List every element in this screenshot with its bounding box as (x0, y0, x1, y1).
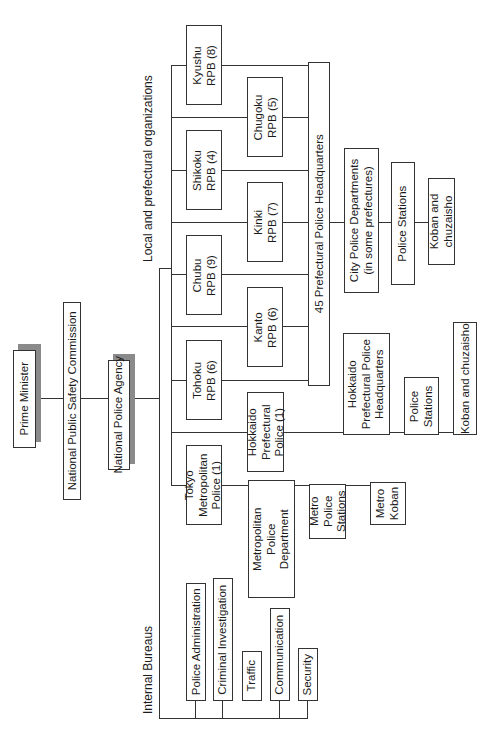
connector (222, 701, 223, 718)
city-police-depts-box: City Police Departments(in some prefectu… (344, 148, 379, 293)
metro-koban-line: Metro (374, 487, 388, 520)
rpb-name: Chugoku (252, 94, 266, 140)
city-koban-box: Koban andchuzaisho (428, 178, 455, 265)
rpb-count: RPB (5) (265, 94, 279, 140)
city-koban-line: Koban and (428, 194, 442, 250)
prefectural-hq-label: 45 Prefectural Police Headquarters (312, 135, 326, 314)
npsc-box: National Public Safety Commission (63, 302, 81, 500)
mpd-line: Department (278, 507, 292, 570)
rpb-name: Kanto (252, 307, 266, 348)
npa-box: National Police Agency (108, 360, 130, 470)
bureau-traffic: Traffic (242, 651, 262, 701)
mpd-line: Metropolitan (251, 507, 265, 570)
hokkaido-stations-line: Police (408, 385, 422, 427)
mpd-box: MetropolitanPoliceDepartment (248, 480, 295, 598)
hokkaido-police-line: Hokkaido (245, 404, 259, 460)
rpb-count: RPB (4) (204, 150, 218, 191)
metro-stations-line: Police (321, 491, 335, 533)
hokkaido-police-line: Prefectural (259, 404, 273, 460)
connector (171, 222, 308, 223)
city-koban-line: chuzaisho (442, 194, 456, 250)
tokyo-police-box: TokyoMetropolitanPolice (1) (186, 445, 222, 525)
hokkaido-hq-box: HokkaidoPrefectural PoliceHeadquarters (343, 333, 390, 435)
connector (279, 701, 280, 718)
bureau-criminal-investigation: Criminal Investigation (213, 578, 233, 701)
hokkaido-stations-line: Stations (422, 385, 436, 427)
rpb-count: RPB (6) (265, 307, 279, 348)
rpb-name: Kinki (252, 202, 266, 243)
bureau-label: Criminal Investigation (216, 585, 230, 695)
city-depts-line: (in some prefectures) (362, 159, 376, 282)
bureau-label: Security (301, 654, 315, 696)
metro-koban-line: Koban (388, 487, 402, 520)
rpb-chugoku: ChugokuRPB (5) (247, 77, 283, 157)
rpb-name: Shikoku (191, 150, 205, 191)
rpb-name: Chubu (191, 255, 205, 296)
tokyo-police-line: Tokyo (184, 453, 198, 516)
connector (330, 222, 344, 223)
prefectural-hq-box: 45 Prefectural Police Headquarters (308, 62, 330, 386)
city-police-stations-label: Police Stations (396, 185, 410, 261)
rpb-name: Tohoku (191, 360, 205, 401)
npa-label: National Police Agency (112, 356, 126, 474)
hokkaido-police-box: HokkaidoPrefecturalPolice (1) (247, 392, 284, 472)
bureau-police-administration: Police Administration (186, 583, 206, 701)
hokkaido-police-line: Police (1) (272, 404, 286, 460)
prime-minister-box: Prime Minister (13, 350, 36, 448)
rpb-count: RPB (8) (204, 45, 218, 86)
bureau-security: Security (298, 648, 318, 701)
hokkaido-hq-line: Headquarters (373, 339, 387, 429)
hokkaido-koban-label: Koban and chuzaisho (458, 323, 472, 434)
bureau-label: Communication (273, 615, 287, 695)
city-police-stations-box: Police Stations (391, 162, 415, 285)
connector (307, 701, 308, 718)
prime-minister-label: Prime Minister (18, 362, 32, 435)
connector (195, 701, 196, 718)
connector (171, 326, 308, 327)
mpd-line: Police (265, 507, 279, 570)
metro-stations-line: Stations (334, 491, 348, 533)
connector (80, 398, 108, 399)
rpb-count: RPB (7) (265, 202, 279, 243)
hokkaido-stations-box: PoliceStations (404, 377, 439, 435)
hokkaido-hq-line: Prefectural Police (360, 339, 374, 429)
rpb-kanto: KantoRPB (6) (247, 287, 283, 367)
metro-koban-box: MetroKoban (370, 482, 406, 525)
bureau-label: Traffic (245, 660, 259, 691)
tokyo-police-line: Metropolitan (197, 453, 211, 516)
rpb-chubu: ChubuRPB (9) (186, 235, 222, 315)
connector (171, 117, 308, 118)
bureau-communication: Communication (270, 608, 290, 701)
rpb-count: RPB (6) (204, 360, 218, 401)
local-trunk (171, 65, 172, 485)
internal-section-label: Internal Bureaus (141, 626, 155, 714)
connector (159, 268, 171, 269)
hokkaido-hq-line: Hokkaido (346, 339, 360, 429)
rpb-count: RPB (9) (204, 255, 218, 296)
rpb-name: Kyushu (191, 45, 205, 86)
npsc-label: National Public Safety Commission (65, 312, 79, 491)
bureau-label: Police Administration (189, 589, 203, 696)
main-trunk (159, 268, 160, 719)
connector (159, 718, 308, 719)
metro-stations-line: Metro (307, 491, 321, 533)
connector (345, 485, 370, 486)
local-section-label: Local and prefectural organizations (141, 75, 155, 262)
connector (222, 485, 248, 486)
hokkaido-koban-box: Koban and chuzaisho (453, 322, 477, 435)
metro-stations-box: MetroPoliceStations (309, 484, 346, 539)
rpb-kyushu: KyushuRPB (8) (186, 25, 222, 105)
city-depts-line: City Police Departments (348, 159, 362, 282)
rpb-kinki: KinkiRPB (7) (247, 182, 283, 262)
rpb-tohoku: TohokuRPB (6) (186, 340, 222, 420)
rpb-shikoku: ShikokuRPB (4) (186, 130, 222, 210)
